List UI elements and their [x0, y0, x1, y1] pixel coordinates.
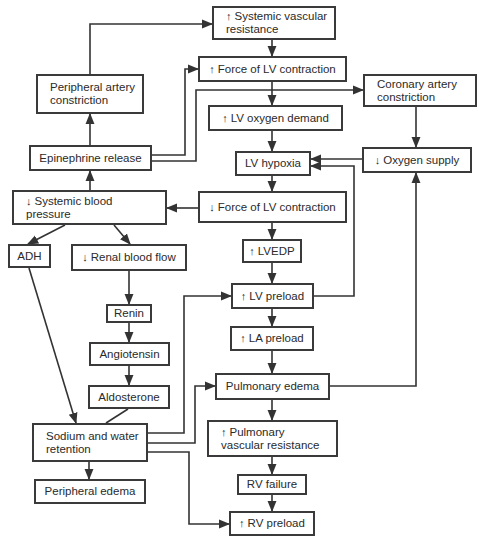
node-adh: ADH — [8, 244, 51, 268]
node-text: ↓Systemic blood pressure — [26, 195, 159, 221]
node-label: Aldosterone — [98, 391, 159, 403]
increase-arrow-icon: ↑ — [241, 290, 247, 302]
node-label: LVEDP — [258, 245, 295, 257]
node-text: ↑LA preload — [240, 332, 304, 345]
node-text: Pulmonary edema — [226, 380, 319, 393]
node-text: ADH — [17, 250, 41, 263]
node-label: Force of LV contraction — [218, 201, 336, 213]
node-label: Angiotensin — [99, 348, 159, 360]
arrow-adh-to-swr — [29, 268, 76, 423]
node-text: LV hypoxia — [245, 157, 301, 170]
node-lvod: ↑LV oxygen demand — [208, 105, 343, 131]
node-label: Oxygen supply — [383, 154, 459, 166]
node-text: Sodium and water retention — [46, 430, 140, 456]
arrow-sbp-to-adh — [28, 225, 65, 244]
node-label: LV preload — [249, 290, 304, 302]
node-cac: Coronary artery constriction — [363, 74, 477, 107]
node-label: Force of LV contraction — [218, 63, 336, 75]
decrease-arrow-icon: ↓ — [209, 201, 215, 213]
arrow-swr-to-rvp — [148, 452, 229, 524]
node-label: Systemic blood pressure — [26, 195, 112, 220]
node-epi: Epinephrine release — [29, 145, 152, 171]
node-text: RV failure — [247, 478, 297, 491]
node-label: LA preload — [249, 332, 304, 344]
increase-arrow-icon: ↑ — [221, 426, 227, 438]
arrow-lvp-to-lvh — [311, 166, 354, 296]
increase-arrow-icon: ↑ — [249, 245, 255, 257]
node-text: ↑Force of LV contraction — [209, 63, 336, 76]
node-rvp: ↑RV preload — [229, 511, 315, 536]
node-text: ↓Renal blood flow — [82, 251, 176, 264]
node-o2: ↓Oxygen supply — [362, 147, 472, 173]
node-flvc_up: ↑Force of LV contraction — [198, 56, 347, 82]
node-text: Angiotensin — [99, 348, 159, 361]
increase-arrow-icon: ↑ — [222, 112, 228, 124]
node-label: Renin — [114, 307, 144, 319]
node-text: Aldosterone — [98, 391, 159, 404]
node-text: Peripheral artery constriction — [50, 81, 136, 107]
arrow-sbp-to-rbf — [114, 225, 130, 244]
node-text: Renin — [114, 307, 144, 320]
arrow-pac-to-svr — [90, 24, 212, 74]
decrease-arrow-icon: ↓ — [26, 195, 32, 207]
node-label: Peripheral edema — [45, 485, 136, 497]
node-pe: Pulmonary edema — [215, 373, 330, 400]
increase-arrow-icon: ↑ — [226, 10, 232, 22]
node-svr: ↑Systemic vascular resistance — [212, 6, 336, 40]
node-text: ↑RV preload — [239, 517, 305, 530]
node-label: LV oxygen demand — [231, 112, 329, 124]
node-text: Epinephrine release — [39, 152, 141, 165]
node-label: Systemic vascular resistance — [226, 10, 327, 35]
node-label: Coronary artery constriction — [377, 78, 457, 103]
node-label: Pulmonary vascular resistance — [221, 426, 319, 451]
node-sbp: ↓Systemic blood pressure — [12, 190, 167, 225]
node-text: Coronary artery constriction — [377, 78, 469, 104]
arrow-ald-to-swr — [106, 409, 128, 423]
node-label: Sodium and water retention — [46, 430, 139, 455]
node-renin: Renin — [106, 304, 152, 323]
node-text: ↓Oxygen supply — [375, 154, 460, 167]
node-label: LV hypoxia — [245, 157, 301, 169]
increase-arrow-icon: ↑ — [239, 517, 245, 529]
node-lvp: ↑LV preload — [231, 283, 314, 309]
node-text: ↓Force of LV contraction — [209, 201, 336, 214]
node-lvh: LV hypoxia — [235, 151, 311, 176]
node-pac: Peripheral artery constriction — [36, 74, 144, 114]
node-pvr: ↑Pulmonary vascular resistance — [207, 420, 338, 457]
node-label: RV preload — [248, 517, 305, 529]
node-label: Peripheral artery constriction — [50, 81, 135, 106]
node-lvedp: ↑LVEDP — [242, 239, 302, 263]
node-flvc_down: ↓Force of LV contraction — [198, 191, 347, 223]
heart-failure-flowchart: ↑Systemic vascular resistancePeripheral … — [0, 0, 477, 541]
arrow-epi-to-flvc_up — [152, 69, 198, 155]
decrease-arrow-icon: ↓ — [375, 154, 381, 166]
node-text: ↑Systemic vascular resistance — [226, 10, 328, 36]
node-lap: ↑LA preload — [230, 326, 314, 351]
node-rvf: RV failure — [237, 474, 307, 495]
increase-arrow-icon: ↑ — [240, 332, 246, 344]
node-label: Epinephrine release — [39, 152, 141, 164]
node-ped: Peripheral edema — [34, 479, 146, 504]
node-label: Renal blood flow — [91, 251, 176, 263]
node-label: RV failure — [247, 478, 297, 490]
increase-arrow-icon: ↑ — [209, 63, 215, 75]
node-ald: Aldosterone — [88, 385, 170, 409]
node-text: Peripheral edema — [45, 485, 136, 498]
node-text: ↑Pulmonary vascular resistance — [221, 426, 330, 452]
node-label: Pulmonary edema — [226, 380, 319, 392]
node-label: ADH — [17, 250, 41, 262]
node-text: ↑LVEDP — [249, 245, 294, 258]
node-rbf: ↓Renal blood flow — [71, 244, 187, 271]
node-swr: Sodium and water retention — [32, 423, 148, 462]
node-text: ↑LV oxygen demand — [222, 112, 329, 125]
decrease-arrow-icon: ↓ — [82, 251, 88, 263]
node-ang: Angiotensin — [89, 342, 170, 366]
node-text: ↑LV preload — [241, 290, 304, 303]
